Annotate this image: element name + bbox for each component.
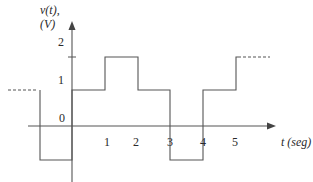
y-axis-unit: (V): [40, 17, 55, 31]
x-axis-label: t (seg): [281, 135, 311, 149]
axes: [28, 28, 270, 182]
y-axis-label: v(t),: [40, 3, 60, 17]
waveform-solid: [40, 57, 238, 160]
x-tick-label-1: 1: [104, 135, 110, 149]
x-axis-arrow-icon: [267, 123, 276, 130]
waveform: [8, 57, 270, 160]
x-tick-label-2: 2: [133, 135, 139, 149]
y-tick-label-1: 1: [58, 73, 64, 87]
y-axis-arrow-icon: [69, 21, 76, 30]
x-tick-label-3: 3: [167, 135, 173, 149]
origin-label: 0: [59, 111, 65, 125]
x-tick-label-4: 4: [200, 135, 206, 149]
voltage-waveform-diagram: v(t), (V) 2 1 0 1 2 3 4 5 t (seg): [0, 0, 313, 182]
x-tick-label-5: 5: [232, 135, 238, 149]
y-tick-label-2: 2: [58, 35, 64, 49]
